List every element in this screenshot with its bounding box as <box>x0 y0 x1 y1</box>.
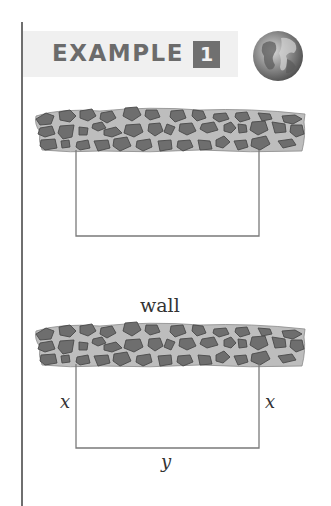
left-side-label: x <box>60 391 70 412</box>
diagram-canvas <box>0 0 331 506</box>
wall-label: wall <box>140 294 180 316</box>
bottom-side-label: y <box>161 451 171 472</box>
right-side-label: x <box>265 391 275 412</box>
stone-wall-bottom <box>36 322 306 367</box>
stone-wall-top <box>36 107 306 152</box>
fence-bottom <box>76 364 259 448</box>
fence-top <box>76 150 259 236</box>
